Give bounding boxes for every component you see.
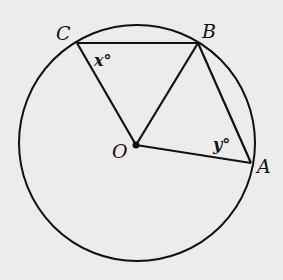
angle-label-y: y° xyxy=(212,135,230,154)
angle-label-x: x° xyxy=(93,51,112,70)
center-point-o xyxy=(133,142,140,149)
point-label-b: B xyxy=(201,20,216,42)
point-label-a: A xyxy=(255,155,271,177)
segment-oa xyxy=(136,145,251,163)
point-label-c: C xyxy=(56,22,71,44)
point-label-o: O xyxy=(112,140,128,162)
segment-bo xyxy=(136,43,198,145)
circle-geometry-diagram: C B O A x° y° xyxy=(0,0,283,280)
